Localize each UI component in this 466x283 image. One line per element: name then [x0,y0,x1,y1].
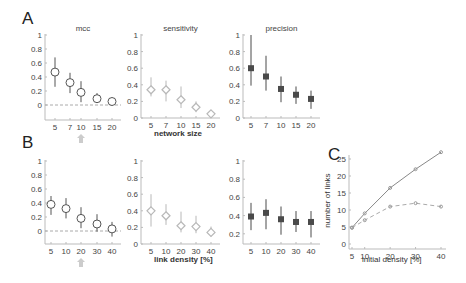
x-tick-label: 40 [307,247,316,256]
y-tick-label: 0.8 [31,45,43,54]
data-point [248,65,254,71]
data-point [248,214,254,220]
y-tick-label: 0.4 [31,199,43,208]
data-point [308,219,314,225]
x-tick-label: 20 [277,247,286,256]
x-tick-label: 30 [192,247,201,256]
y-tick-label: 0.6 [31,185,43,194]
panel-b-precision [243,160,320,244]
y-tick-label: 0 [342,240,347,249]
y-tick-label: 0.4 [229,212,241,221]
y-tick-label: 1 [236,157,241,166]
x-tick-label: 20 [177,247,186,256]
x-tick-label: 10 [177,121,186,130]
y-tick-label: 1 [236,31,241,40]
data-point [207,228,215,236]
panel-c [349,151,446,249]
data-point [51,68,59,76]
y-tick-label: 0.2 [229,230,241,239]
data-point [263,210,269,216]
data-point [293,219,299,225]
y-tick-label: 0.8 [229,175,241,184]
y-tick-label: 0 [38,101,43,110]
data-point [414,202,417,205]
x-tick-label: 20 [77,247,86,256]
x-tick-label: 30 [411,252,420,261]
panel-a-precision [243,34,320,118]
x-tick-label: 10 [277,121,286,130]
y-tick-label: 0.4 [229,81,241,90]
y-tick-label: 0.4 [127,81,139,90]
x-tick-label: 40 [437,252,446,261]
y-tick-label: 0.2 [127,223,139,232]
y-tick-label: 0.6 [229,193,241,202]
x-tick-label: 30 [292,247,301,256]
data-point [108,98,116,106]
arrow-up-icon [77,258,85,267]
panel-a-sensitivity [141,34,220,118]
data-point [93,95,101,103]
y-tick-label: 0.8 [127,174,139,183]
arrow-up-icon [77,134,85,143]
y-tick-label: 1 [38,31,43,40]
y-tick-label: 0 [134,114,139,123]
x-tick-label: 10 [262,247,271,256]
x-tick-label: 10 [162,247,171,256]
x-tick-label: 15 [192,121,201,130]
data-point [162,86,170,94]
x-tick-label: 10 [77,123,86,132]
y-tick-label: 25 [337,155,346,164]
x-tick-label: 10 [62,247,71,256]
x-tick-label: 5 [49,247,54,256]
y-tick-label: 0.2 [229,97,241,106]
y-tick-label: 0.6 [229,64,241,73]
y-tick-label: 0.6 [127,190,139,199]
x-tick-label: 15 [292,121,301,130]
data-point [147,207,155,215]
x-tick-label: 20 [307,121,316,130]
x-tick-label: 7 [164,121,169,130]
data-point [192,103,200,111]
data-point [177,222,185,230]
panel-title: precision [265,24,297,33]
x-tick-label: 5 [249,121,254,130]
y-tick-label: 15 [337,189,346,198]
y-tick-label: 0.4 [127,207,139,216]
data-point [62,205,70,213]
x-tick-label: 40 [108,247,117,256]
x-tick-label: 5 [53,123,58,132]
data-point [108,225,116,233]
data-point [293,92,299,98]
x-tick-label: 5 [249,247,254,256]
x-tick-label: 40 [207,247,216,256]
y-tick-label: 0.8 [127,48,139,57]
x-tick-label: 20 [108,123,117,132]
data-point [192,223,200,231]
data-point [308,96,314,102]
x-tick-label: 7 [264,121,269,130]
y-tick-label: 0.4 [31,73,43,82]
figure: 00.20.40.60.8157101520mcc00.20.40.60.815… [0,0,466,283]
y-tick-label: 0 [134,240,139,249]
panel-title: sensitivity [163,24,198,33]
panel-b-sensitivity [141,160,220,244]
x-tick-label: 7 [68,123,73,132]
data-point [77,214,85,222]
x-tick-label: 5 [350,252,355,261]
panel-title: mcc [76,24,91,33]
data-point [147,86,155,94]
y-tick-label: 0 [236,114,241,123]
series-line-solid [352,152,441,227]
series-line-dashed [352,203,441,227]
data-point [162,212,170,220]
y-tick-label: 0.6 [127,64,139,73]
y-tick-label: 5 [342,223,347,232]
x-tick-label: 30 [93,247,102,256]
data-point [77,88,85,96]
y-tick-label: 0.6 [31,59,43,68]
y-tick-label: 1 [134,157,139,166]
x-tick-label: 15 [93,123,102,132]
y-tick-label: 0.2 [31,213,43,222]
y-tick-label: 0.8 [31,171,43,180]
x-tick-label: 20 [207,121,216,130]
